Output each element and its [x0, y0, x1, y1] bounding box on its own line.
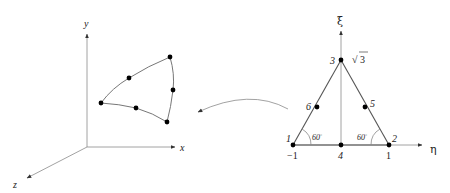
reference-node-5 — [363, 105, 368, 110]
reference-node-6 — [315, 105, 320, 110]
node-label-2: 2 — [392, 133, 397, 144]
tick-label-apex: √ 3 — [352, 52, 368, 65]
physical-node — [168, 55, 173, 60]
svg-text:√: √ — [352, 54, 358, 65]
physical-node — [127, 76, 132, 81]
xi-axis-label: ξ — [337, 15, 343, 28]
reference-node-3 — [339, 58, 344, 63]
element-edge-top — [101, 57, 170, 103]
angle-arc-right — [371, 129, 380, 145]
y-axis-label: y — [83, 18, 89, 29]
reference-node-1 — [291, 143, 296, 148]
physical-node — [134, 106, 139, 111]
x-axis-label: x — [179, 142, 185, 153]
physical-node — [99, 101, 104, 106]
node-label-4: 4 — [338, 150, 343, 161]
mapping-arrow — [198, 99, 288, 112]
svg-text:3: 3 — [360, 54, 365, 65]
isoparametric-mapping-diagram: y x z ξ η 60° 60° — [0, 0, 450, 193]
physical-node — [165, 120, 170, 125]
physical-space-axes: y x z — [12, 18, 185, 190]
reference-element: 60° 60° 1 2 3 4 5 6 −1 1 √ 3 — [286, 52, 397, 161]
reference-node-2 — [387, 143, 392, 148]
eta-axis-label: η — [430, 143, 437, 156]
angle-arc-left — [302, 129, 311, 145]
angle-label-left: 60° — [312, 133, 322, 142]
node-label-1: 1 — [286, 133, 291, 144]
angle-label-right: 60° — [357, 133, 367, 142]
z-axis — [27, 147, 87, 178]
reference-node-4 — [339, 143, 344, 148]
z-axis-label: z — [12, 179, 17, 190]
tick-label-left: −1 — [287, 150, 298, 161]
node-label-3: 3 — [329, 55, 335, 66]
physical-element — [99, 55, 176, 125]
tick-label-right: 1 — [386, 150, 391, 161]
physical-node — [171, 88, 176, 93]
node-label-5: 5 — [370, 98, 375, 109]
element-edge-bottom — [101, 103, 167, 122]
node-label-6: 6 — [306, 101, 311, 112]
